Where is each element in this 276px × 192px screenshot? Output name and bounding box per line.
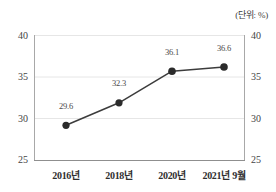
- line-chart: (단위: %) 40 35 30 25 40 35 30 25 29.6 32.…: [0, 0, 276, 192]
- x-tick-0: 2016년: [36, 167, 96, 182]
- y-tick-left-1: 35: [6, 71, 28, 82]
- data-label-3: 36.6: [204, 43, 244, 53]
- series-line: [66, 67, 224, 125]
- data-label-0: 29.6: [46, 101, 86, 111]
- data-label-2: 36.1: [152, 47, 192, 57]
- y-tick-right-2: 30: [251, 113, 273, 124]
- axes: [34, 35, 245, 161]
- x-tick-1: 2018년: [89, 167, 149, 182]
- y-tick-right-0: 40: [251, 30, 273, 41]
- data-point-3: [220, 63, 228, 71]
- y-tick-right-1: 35: [251, 71, 273, 82]
- data-point-1: [115, 99, 122, 106]
- y-tick-left-3: 25: [6, 154, 28, 165]
- data-point-2: [168, 67, 176, 75]
- series-markers: [62, 63, 227, 129]
- plot-area: [0, 0, 276, 192]
- y-tick-left-2: 30: [6, 113, 28, 124]
- y-tick-right-3: 25: [251, 154, 273, 165]
- x-tick-3: 2021년 9월: [189, 167, 259, 182]
- data-point-0: [62, 122, 69, 129]
- data-label-1: 32.3: [99, 78, 139, 88]
- y-tick-left-0: 40: [6, 30, 28, 41]
